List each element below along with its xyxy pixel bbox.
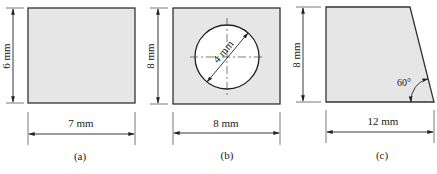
figure-b: 4 mm 8 mm 8 mm (b) [144, 8, 280, 162]
width-label-a: 7 mm [68, 117, 94, 129]
rectangle-section-a [28, 8, 135, 103]
cross-section-diagrams: 6 mm 7 mm (a) 4 mm 8 mm 8 mm (b) [0, 0, 437, 174]
width-label-b: 8 mm [213, 117, 239, 129]
height-label-c: 8 mm [290, 42, 302, 68]
angle-label: 60° [397, 77, 411, 88]
height-label-b: 8 mm [144, 43, 156, 69]
caption-c: (c) [376, 149, 389, 162]
figure-a: 6 mm 7 mm (a) [0, 8, 135, 163]
width-label-c: 12 mm [368, 115, 399, 127]
caption-b: (b) [221, 149, 234, 162]
figure-c: 8 mm 60° 12 mm (c) [290, 7, 434, 162]
caption-a: (a) [74, 150, 87, 163]
trapezoid-section-c [326, 7, 434, 102]
height-label-a: 6 mm [0, 43, 12, 69]
